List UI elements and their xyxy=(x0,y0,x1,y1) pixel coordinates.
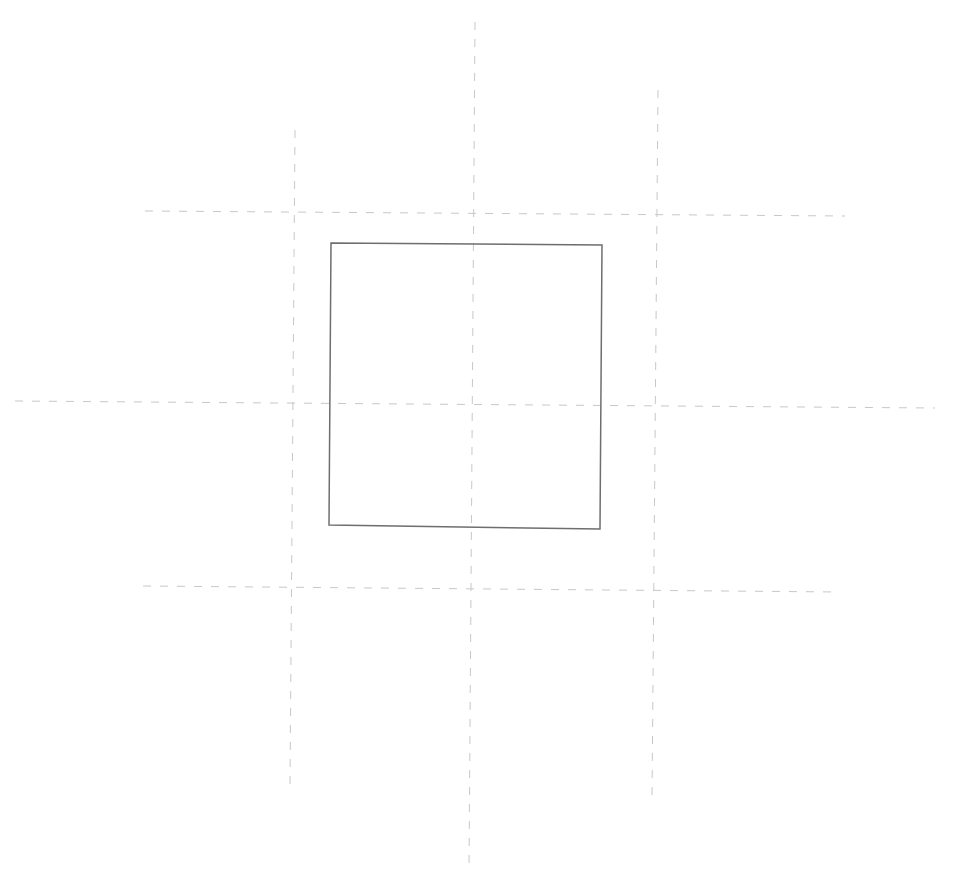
diagram-canvas xyxy=(0,0,958,890)
background xyxy=(0,0,958,890)
